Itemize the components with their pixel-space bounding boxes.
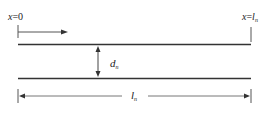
gap-label: dn [110,58,119,70]
length-label: ln [131,90,137,102]
end-label-sub: n [255,17,258,23]
length-arrowhead-right-icon [244,94,250,99]
start-label: x=0 [8,12,23,22]
gap-label-sub: n [116,64,119,70]
end-label: x=ln [242,12,258,23]
start-label-eq: =0 [12,11,23,22]
direction-arrowhead-icon [61,30,68,35]
gap-arrowhead-up-icon [96,46,101,52]
length-label-sub: n [134,96,137,102]
gap-arrowhead-down-icon [96,71,101,77]
length-arrowhead-left-icon [19,94,25,99]
